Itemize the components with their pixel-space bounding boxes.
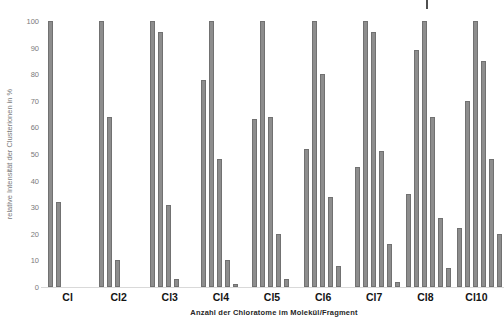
bar	[115, 260, 120, 287]
bar-group	[402, 21, 453, 287]
bar	[355, 167, 360, 287]
bar-group	[300, 21, 351, 287]
y-tick-label: 50	[0, 150, 39, 159]
bar-group	[453, 21, 504, 287]
bar	[150, 21, 155, 287]
bar	[320, 74, 325, 287]
category-label: Cl	[42, 291, 93, 303]
bar	[225, 260, 230, 287]
bar	[363, 21, 368, 287]
category-label: Cl10	[451, 291, 502, 303]
category-label: Cl7	[349, 291, 400, 303]
bar-groups	[44, 21, 504, 287]
bar	[233, 284, 238, 287]
y-tick-label: 10	[0, 256, 39, 265]
bar-group	[146, 21, 197, 287]
category-label: Cl6	[298, 291, 349, 303]
bar-group	[248, 21, 299, 287]
isotope-bar-chart: relative Intensität der Clusterionen in …	[0, 0, 504, 328]
category-label: Cl5	[246, 291, 297, 303]
category-label: Cl2	[93, 291, 144, 303]
bar	[174, 279, 179, 287]
bar-group	[351, 21, 402, 287]
y-tick-label: 0	[0, 283, 39, 292]
bar	[489, 159, 494, 287]
bar	[438, 218, 443, 287]
bar	[328, 197, 333, 287]
y-tick-label: 70	[0, 96, 39, 105]
y-tick-label: 60	[0, 123, 39, 132]
y-tick-label: 90	[0, 43, 39, 52]
bar-group	[197, 21, 248, 287]
bar	[312, 21, 317, 287]
bar	[481, 61, 486, 287]
y-tick-label: 20	[0, 229, 39, 238]
bar	[465, 101, 470, 287]
bar	[201, 80, 206, 287]
bar	[430, 117, 435, 287]
bar	[99, 21, 104, 287]
bar	[336, 266, 341, 287]
bar	[48, 21, 53, 287]
category-label: Cl4	[195, 291, 246, 303]
bar	[473, 21, 478, 287]
bar	[497, 234, 502, 287]
category-label: Cl3	[144, 291, 195, 303]
y-axis-tick-labels: 1009080706050403020100	[0, 0, 39, 328]
bar	[387, 244, 392, 287]
x-axis-title: Anzahl der Chloratome im Molekül/Fragmen…	[44, 308, 504, 317]
y-tick-label: 30	[0, 203, 39, 212]
y-tick-label: 40	[0, 176, 39, 185]
x-axis-line	[41, 287, 504, 288]
bar	[422, 21, 427, 287]
category-labels: ClCl2Cl3Cl4Cl5Cl6Cl7Cl8Cl10	[42, 291, 502, 303]
y-tick-label: 100	[0, 17, 39, 26]
bar	[414, 50, 419, 287]
bar	[457, 228, 462, 287]
bar	[304, 149, 309, 287]
stray-vertical-mark	[426, 0, 428, 9]
bar	[158, 32, 163, 287]
bar-group	[44, 21, 95, 287]
bar	[446, 268, 451, 287]
category-label: Cl8	[400, 291, 451, 303]
bar	[406, 194, 411, 287]
bar	[284, 279, 289, 287]
y-tick-label: 80	[0, 70, 39, 79]
bar	[379, 151, 384, 287]
bar-group	[95, 21, 146, 287]
bar	[209, 21, 214, 287]
bar	[260, 21, 265, 287]
bar	[107, 117, 112, 287]
bar	[56, 202, 61, 287]
bar	[252, 119, 257, 287]
bar	[371, 32, 376, 287]
bar	[395, 282, 400, 287]
bar	[217, 159, 222, 287]
bar	[268, 117, 273, 287]
bar	[166, 205, 171, 287]
bar	[276, 234, 281, 287]
